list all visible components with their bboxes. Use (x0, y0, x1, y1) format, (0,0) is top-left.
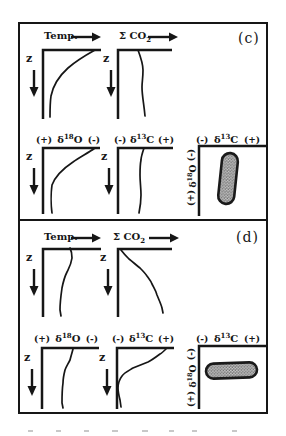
right-arrow-icon (71, 233, 101, 243)
panel-divider (18, 219, 268, 221)
down-arrow-icon (104, 168, 114, 195)
caption-remnant-mark (169, 430, 174, 432)
temp-plot (40, 46, 104, 120)
crossplot (185, 142, 267, 218)
temp-plot (40, 245, 104, 319)
d13c-curve (118, 349, 166, 407)
right-arrow-icon (149, 233, 179, 243)
d18o-curve (62, 349, 73, 408)
z-axis-label: z (99, 352, 105, 363)
z-axis-label: z (24, 352, 30, 363)
co2-curve (121, 250, 163, 313)
down-arrow-icon (29, 269, 39, 296)
down-arrow-icon (103, 269, 113, 296)
z-axis-label: z (100, 252, 106, 263)
crossplot (185, 341, 267, 411)
caption-remnant-mark (142, 430, 148, 432)
caption-remnant-mark (56, 430, 61, 432)
z-axis-label: z (26, 151, 32, 162)
caption-remnant-mark (84, 430, 89, 432)
co2-plot (114, 46, 176, 120)
right-arrow-icon (148, 32, 178, 42)
caption-remnant-mark (192, 430, 197, 432)
z-axis-label: z (103, 53, 109, 64)
caption-remnant-mark (232, 430, 237, 432)
caption-remnant-mark (28, 430, 33, 432)
d18o-plot (40, 144, 104, 215)
d18o-curve (51, 148, 95, 213)
crossplot-ellipse (217, 152, 238, 204)
z-axis-label: z (101, 151, 107, 162)
panel-d-label: (d) (236, 229, 259, 245)
panel-c-label: (c) (238, 30, 260, 46)
down-arrow-icon (29, 70, 39, 97)
d13c-plot (115, 144, 175, 215)
crossplot-ellipse (206, 362, 257, 379)
temp-curve (60, 248, 72, 316)
co2-curve (138, 50, 145, 116)
temp-curve (50, 50, 95, 117)
figure: (c) Temp. Σ CO2 z z (+) δ18O (-) z (0, 0, 286, 436)
co2-plot (114, 245, 176, 319)
d13c-curve (139, 148, 144, 213)
co2-axis-label: Σ CO2 (119, 30, 151, 46)
z-axis-label: z (26, 53, 32, 64)
down-arrow-icon (102, 369, 112, 396)
z-axis-label: z (26, 252, 32, 263)
caption-remnant-mark (112, 430, 118, 432)
d13c-plot (113, 344, 177, 410)
down-arrow-icon (29, 168, 39, 195)
down-arrow-icon (27, 369, 37, 396)
right-arrow-icon (71, 32, 101, 42)
d18o-plot (38, 344, 102, 410)
